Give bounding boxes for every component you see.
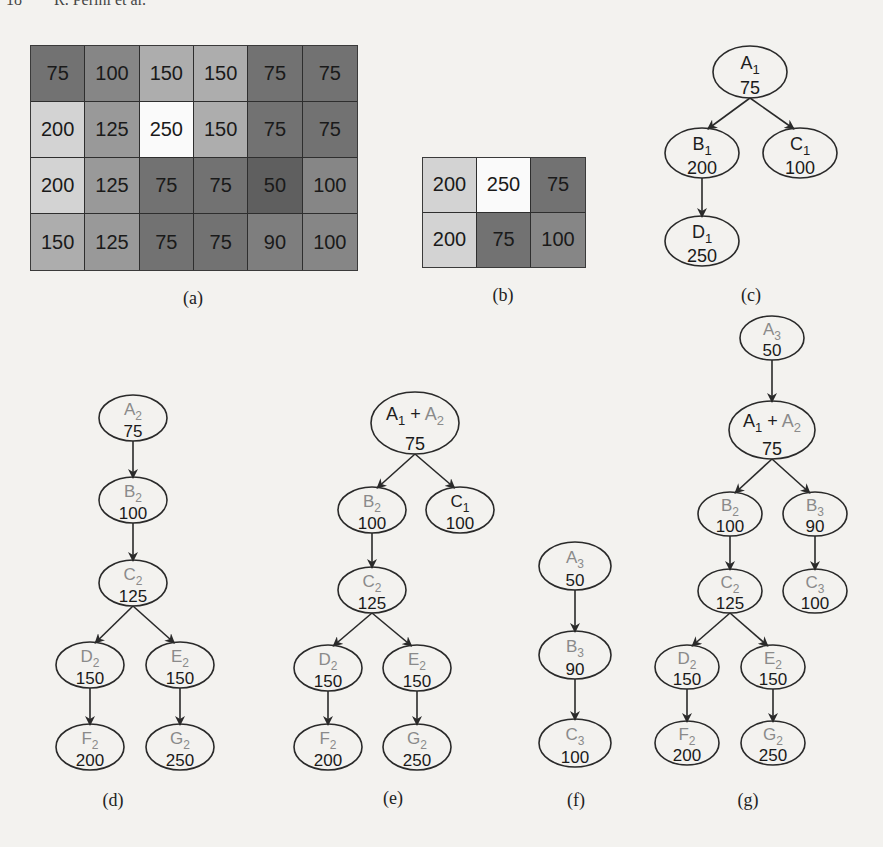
tree-node: G2250 <box>741 721 805 765</box>
tree-node: G2250 <box>383 724 451 770</box>
node-label: A1 + A2 <box>743 411 801 435</box>
tree-edge-arrow <box>735 459 772 493</box>
tree-c: A175B1200C1100D1250 <box>665 46 837 266</box>
node-label: C3 <box>806 573 825 596</box>
node-label: B2 <box>363 492 381 515</box>
node-value: 200 <box>673 746 701 765</box>
tree-node: B2100 <box>338 487 406 533</box>
node-label: C2 <box>721 573 740 596</box>
tree-node: F2200 <box>56 724 124 770</box>
node-value: 150 <box>314 672 342 691</box>
node-value: 100 <box>119 504 147 523</box>
tree-node: D1250 <box>665 216 739 266</box>
tree-node: A175 <box>713 46 787 98</box>
tree-node: C2125 <box>338 567 406 613</box>
tree-node: E2150 <box>383 645 451 691</box>
node-label: G2 <box>763 725 783 748</box>
tree-node: C1100 <box>426 487 494 533</box>
tree-edge-arrow <box>372 613 412 646</box>
tree-node: B390 <box>783 492 847 536</box>
node-value: 200 <box>76 751 104 770</box>
node-label: F2 <box>678 725 695 748</box>
tree-node: F2200 <box>294 724 362 770</box>
tree-node: C2125 <box>99 560 167 606</box>
node-label: A1 + A2 <box>386 404 444 428</box>
node-value: 125 <box>716 594 744 613</box>
node-value: 125 <box>119 587 147 606</box>
node-label: B1 <box>692 134 711 158</box>
node-label: A1 <box>740 53 759 77</box>
tree-edge-arrow <box>730 613 768 646</box>
node-value: 50 <box>763 341 782 360</box>
node-value: 75 <box>405 434 425 454</box>
tree-node: A1 + A275 <box>729 401 815 459</box>
node-value: 90 <box>566 660 585 679</box>
node-value: 150 <box>166 669 194 688</box>
tree-node: D2150 <box>655 645 719 689</box>
tree-node: F2200 <box>655 721 719 765</box>
node-label: A2 <box>124 400 142 423</box>
node-label: D2 <box>319 650 338 673</box>
tree-edge-arrow <box>95 606 133 643</box>
tree-diagrams: A175B1200C1100D1250A275B2100C2125D2150E2… <box>0 0 883 847</box>
node-label: C2 <box>124 565 143 588</box>
node-label: B2 <box>124 482 142 505</box>
tree-edge-arrow <box>415 454 455 488</box>
node-value: 100 <box>446 514 474 533</box>
tree-f: A350B390C3100 <box>539 542 611 767</box>
node-value: 100 <box>801 594 829 613</box>
node-label: C1 <box>451 492 470 515</box>
node-value: 75 <box>762 439 782 459</box>
tree-node: A350 <box>539 542 611 590</box>
tree-node: C3100 <box>539 719 611 767</box>
node-label: A3 <box>566 548 584 571</box>
node-value: 75 <box>124 422 143 441</box>
tree-node: E2150 <box>146 642 214 688</box>
tree-node: A1 + A275 <box>371 392 459 454</box>
tree-node: C1100 <box>763 128 837 178</box>
node-value: 250 <box>403 751 431 770</box>
node-label: E2 <box>764 649 782 672</box>
node-value: 150 <box>673 670 701 689</box>
node-value: 100 <box>358 514 386 533</box>
tree-node: A350 <box>740 316 804 360</box>
node-value: 100 <box>716 517 744 536</box>
node-value: 100 <box>785 158 815 178</box>
node-label: B2 <box>721 496 739 519</box>
node-value: 250 <box>166 751 194 770</box>
tree-node: B2100 <box>698 492 762 536</box>
node-label: A3 <box>763 320 781 343</box>
node-label: C3 <box>566 725 585 748</box>
tree-node: G2250 <box>146 724 214 770</box>
node-value: 150 <box>759 670 787 689</box>
node-label: B3 <box>566 637 584 660</box>
tree-node: B1200 <box>665 128 739 178</box>
node-value: 50 <box>566 571 585 590</box>
tree-node: C2125 <box>698 569 762 613</box>
tree-edge-arrow <box>333 613 372 646</box>
node-label: C2 <box>363 572 382 595</box>
node-value: 100 <box>561 748 589 767</box>
tree-edge-arrow <box>377 454 415 488</box>
tree-e: A1 + A275B2100C1100C2125D2150E2150F2200G… <box>294 392 494 770</box>
node-value: 150 <box>403 672 431 691</box>
tree-node: D2150 <box>56 642 124 688</box>
tree-node: A275 <box>99 395 167 441</box>
node-label: F2 <box>319 729 336 752</box>
tree-edge-arrow <box>750 98 794 129</box>
tree-node: D2150 <box>294 645 362 691</box>
tree-edge-arrow <box>133 606 174 643</box>
tree-edge-arrow <box>708 98 750 129</box>
node-label: F2 <box>81 729 98 752</box>
node-label: E2 <box>408 650 426 673</box>
node-label: E2 <box>171 647 189 670</box>
tree-edge-arrow <box>772 459 810 493</box>
tree-node: B2100 <box>99 477 167 523</box>
node-value: 75 <box>740 78 760 98</box>
node-label: C1 <box>790 134 810 158</box>
node-value: 200 <box>687 158 717 178</box>
tree-g: A350A1 + A275B2100B390C2125C3100D2150E21… <box>655 316 847 765</box>
node-value: 200 <box>314 751 342 770</box>
node-value: 90 <box>806 517 825 536</box>
node-label: G2 <box>407 729 427 752</box>
